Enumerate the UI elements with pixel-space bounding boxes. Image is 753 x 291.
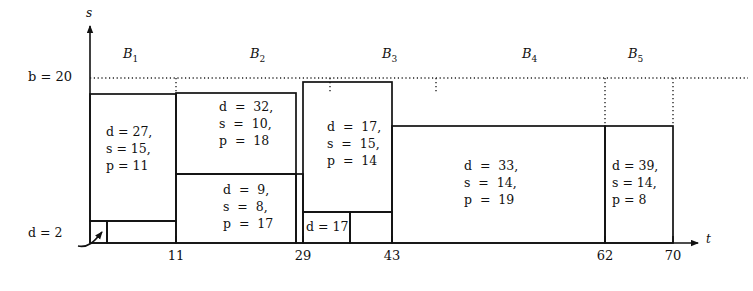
item-b1-main-d: d = 27, xyxy=(106,123,152,140)
item-label-b2-top: d = 32, s = 10, p = 18 xyxy=(219,98,273,149)
item-label-b1-main: d = 27, s = 15, p = 11 xyxy=(106,123,152,174)
bin-caption-B4-index: 4 xyxy=(532,54,538,64)
item-b1-main-p: p = 11 xyxy=(106,157,152,174)
bin-caption-B3-index: 3 xyxy=(392,54,398,64)
item-b2-top-p: p = 18 xyxy=(219,132,273,149)
bin-caption-B5-name: B xyxy=(628,46,638,61)
item-b4-main-d: d = 33, xyxy=(464,157,518,174)
x-tick-label-70: 70 xyxy=(658,248,688,263)
x-axis-ticks xyxy=(176,236,673,243)
item-b2-bottom-d: d = 9, xyxy=(223,181,273,198)
capacity-label: b = 20 xyxy=(28,69,72,84)
item-b3-main-d: d = 17, xyxy=(327,118,381,135)
axis-label-t: t xyxy=(706,232,711,246)
bin-caption-B2-name: B xyxy=(250,46,260,61)
item-b2-bottom-s: s = 8, xyxy=(223,198,273,215)
x-tick-label-29: 29 xyxy=(288,248,318,263)
item-b4-main-p: p = 19 xyxy=(464,191,518,208)
axis-label-s: s xyxy=(86,6,92,20)
item-label-b2-bottom: d = 9, s = 8, p = 17 xyxy=(223,181,273,232)
item-b3-main-s: s = 15, xyxy=(327,135,381,152)
item-b1-main-s: s = 15, xyxy=(106,140,152,157)
figure-canvas: s t b = 20 B1 B2 B3 B4 B5 11 29 43 62 70… xyxy=(0,0,753,291)
item-label-b5-main: d = 39, s = 14, p = 8 xyxy=(612,157,658,208)
item-b4-main-s: s = 14, xyxy=(464,174,518,191)
item-b2-bottom-p: p = 17 xyxy=(223,215,273,232)
item-b2-top-d: d = 32, xyxy=(219,98,273,115)
item-label-b4-main: d = 33, s = 14, p = 19 xyxy=(464,157,518,208)
item-label-b3-main: d = 17, s = 15, p = 14 xyxy=(327,118,381,169)
bin-caption-B1-index: 1 xyxy=(133,54,139,64)
bin-caption-B2: B2 xyxy=(250,46,265,64)
bin-caption-B4-name: B xyxy=(522,46,532,61)
item-b3-main-p: p = 14 xyxy=(327,152,381,169)
item-b2-top-s: s = 10, xyxy=(219,115,273,132)
bin-caption-B1-name: B xyxy=(123,46,133,61)
bin-caption-B5-index: 5 xyxy=(638,54,644,64)
bin-caption-B5: B5 xyxy=(628,46,643,64)
x-tick-label-11: 11 xyxy=(161,248,191,263)
bin-caption-B3: B3 xyxy=(382,46,397,64)
item-b5-main-s: s = 14, xyxy=(612,174,658,191)
bin-caption-B2-index: 2 xyxy=(260,54,266,64)
item-label-d17: d = 17 xyxy=(306,219,348,234)
item-b5-main-p: p = 8 xyxy=(612,191,658,208)
bin-caption-B3-name: B xyxy=(382,46,392,61)
bin-caption-B1: B1 xyxy=(123,46,138,64)
x-tick-label-43: 43 xyxy=(377,248,407,263)
bin-caption-B4: B4 xyxy=(522,46,537,64)
item-b5-main-d: d = 39, xyxy=(612,157,658,174)
x-tick-label-62: 62 xyxy=(590,248,620,263)
callout-label-d2: d = 2 xyxy=(28,225,62,240)
